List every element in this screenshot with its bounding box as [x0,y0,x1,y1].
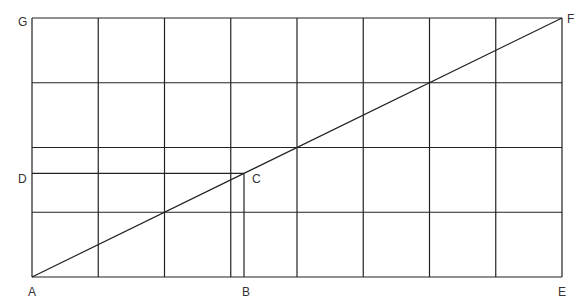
point-labels: A B C D E F G [18,12,574,299]
label-D: D [18,172,27,186]
label-B: B [242,285,250,299]
label-G: G [18,15,27,29]
label-E: E [558,285,566,299]
diagram-canvas: A B C D E F G [0,0,584,305]
label-C: C [252,172,261,186]
label-A: A [28,285,36,299]
label-F: F [567,12,574,26]
